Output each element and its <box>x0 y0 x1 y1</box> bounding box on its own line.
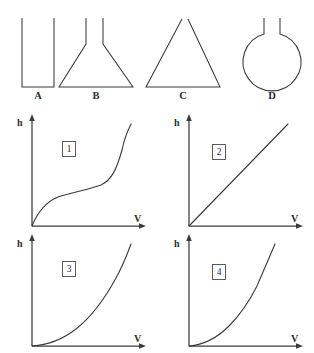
container-a: A <box>22 18 54 101</box>
graph-4-number-badge: 4 <box>213 265 226 280</box>
graph-1-y-axis-label: h <box>17 117 23 128</box>
graph-1-curve <box>32 124 131 226</box>
graph-3-x-axis-arrow <box>139 343 146 349</box>
graph-2-y-axis-arrow <box>186 114 192 121</box>
graph-1-number: 1 <box>67 144 72 154</box>
container-d: D <box>243 18 301 101</box>
erlenmeyer-flask-icon <box>59 18 133 87</box>
container-label-c: C <box>179 90 187 101</box>
container-label-b: B <box>92 90 99 101</box>
graph-1: h V 1 <box>0 110 157 232</box>
graph-3: h V 3 <box>0 228 157 353</box>
round-flask-icon <box>243 18 301 91</box>
cone-icon <box>146 19 220 87</box>
container-b: B <box>59 18 133 101</box>
cylinder-icon <box>22 18 54 87</box>
graph-4-x-axis-arrow <box>296 343 303 349</box>
graph-4-x-axis-label: V <box>291 333 299 344</box>
container-c: C <box>146 19 220 101</box>
graph-2: h V 2 <box>157 110 314 232</box>
graph-1-y-axis-arrow <box>29 114 35 121</box>
graph-4-number: 4 <box>217 267 222 277</box>
graph-3-curve <box>32 244 131 346</box>
container-label-d: D <box>268 90 276 101</box>
container-label-a: A <box>34 90 42 101</box>
graph-1-x-axis-label: V <box>134 213 142 224</box>
graph-2-number-badge: 2 <box>213 145 226 160</box>
graph-4-y-axis-label: h <box>174 238 180 249</box>
graph-1-number-badge: 1 <box>63 142 76 157</box>
figure-root: A B C D h V 1 <box>0 0 314 353</box>
container-row: A B C D <box>0 0 314 110</box>
graph-3-x-axis-label: V <box>134 333 142 344</box>
graph-2-number: 2 <box>217 147 222 157</box>
graph-2-curve <box>189 124 288 226</box>
graph-3-y-axis-label: h <box>17 238 23 249</box>
graph-3-number-badge: 3 <box>63 262 76 277</box>
graph-2-y-axis-label: h <box>174 117 180 128</box>
graph-4-curve <box>189 244 275 346</box>
graph-4: h V 4 <box>157 228 314 353</box>
graph-3-number: 3 <box>67 264 72 274</box>
graph-4-y-axis-arrow <box>186 234 192 241</box>
graph-2-x-axis-label: V <box>291 213 299 224</box>
graph-3-y-axis-arrow <box>29 234 35 241</box>
